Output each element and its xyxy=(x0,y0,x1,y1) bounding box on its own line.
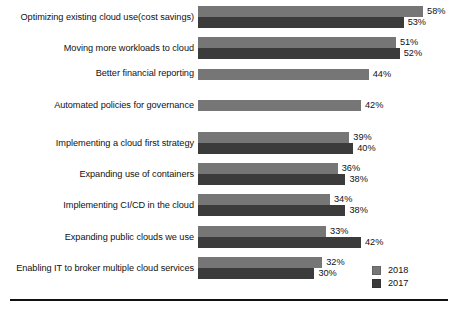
bar-2018 xyxy=(198,257,322,268)
chart-legend: 2018 2017 xyxy=(372,264,408,290)
bar-2017 xyxy=(198,268,314,279)
category-label: Optimizing existing cloud use(cost savin… xyxy=(0,12,194,23)
bar-value-label: 58% xyxy=(427,5,445,17)
legend-label-2018: 2018 xyxy=(388,264,408,277)
bar-value-label: 44% xyxy=(373,68,391,80)
legend-item-2017: 2017 xyxy=(372,277,408,290)
bar-row: 38% xyxy=(198,205,458,216)
bar-value-label: 40% xyxy=(357,142,375,154)
category-label: Enabling IT to broker multiple cloud ser… xyxy=(0,263,194,274)
bar-2018 xyxy=(198,132,349,143)
bar-2018 xyxy=(198,100,361,111)
bar-row: 33% xyxy=(198,226,458,237)
bar-2017 xyxy=(198,48,400,59)
legend-swatch-2017 xyxy=(372,279,381,288)
bar-value-label: 30% xyxy=(318,267,336,279)
legend-item-2018: 2018 xyxy=(372,264,408,277)
bar-row: 40% xyxy=(198,143,458,154)
bar-row: 44% xyxy=(198,69,458,80)
bar-row: 52% xyxy=(198,48,458,59)
bar-2017 xyxy=(198,237,361,248)
bar-row: 34% xyxy=(198,194,458,205)
bar-2018 xyxy=(198,69,369,80)
bar-value-label: 52% xyxy=(404,47,422,59)
bar-row: 36% xyxy=(198,163,458,174)
bar-value-label: 42% xyxy=(365,236,383,248)
bar-chart: Optimizing existing cloud use(cost savin… xyxy=(0,0,462,315)
legend-swatch-2018 xyxy=(372,266,381,275)
bar-row: 42% xyxy=(198,237,458,248)
bar-row: 39% xyxy=(198,132,458,143)
category-label: Implementing CI/CD in the cloud xyxy=(0,200,194,211)
bar-2017 xyxy=(198,174,345,185)
category-label: Automated policies for governance xyxy=(0,100,194,111)
bar-row: 38% xyxy=(198,174,458,185)
bar-value-label: 33% xyxy=(330,225,348,237)
bar-2018 xyxy=(198,194,330,205)
legend-label-2017: 2017 xyxy=(388,277,408,290)
bar-2018 xyxy=(198,163,338,174)
category-label: Expanding use of containers xyxy=(0,169,194,180)
bar-2018 xyxy=(198,6,423,17)
bar-2018 xyxy=(198,226,326,237)
bar-2017 xyxy=(198,17,404,28)
bar-value-label: 38% xyxy=(349,204,367,216)
bar-value-label: 53% xyxy=(408,16,426,28)
category-label: Expanding public clouds we use xyxy=(0,232,194,243)
category-label: Better financial reporting xyxy=(0,68,194,79)
bar-row: 30% xyxy=(198,268,458,279)
bottom-axis-line xyxy=(10,299,448,301)
category-label: Implementing a cloud first strategy xyxy=(0,138,194,149)
bar-row: 42% xyxy=(198,100,458,111)
bar-value-label: 38% xyxy=(349,173,367,185)
bar-value-label: 42% xyxy=(365,99,383,111)
bar-row: 53% xyxy=(198,17,458,28)
bar-2018 xyxy=(198,37,396,48)
bar-2017 xyxy=(198,205,345,216)
category-label: Moving more workloads to cloud xyxy=(0,43,194,54)
plot-area: Optimizing existing cloud use(cost savin… xyxy=(0,0,462,296)
bar-2017 xyxy=(198,143,353,154)
